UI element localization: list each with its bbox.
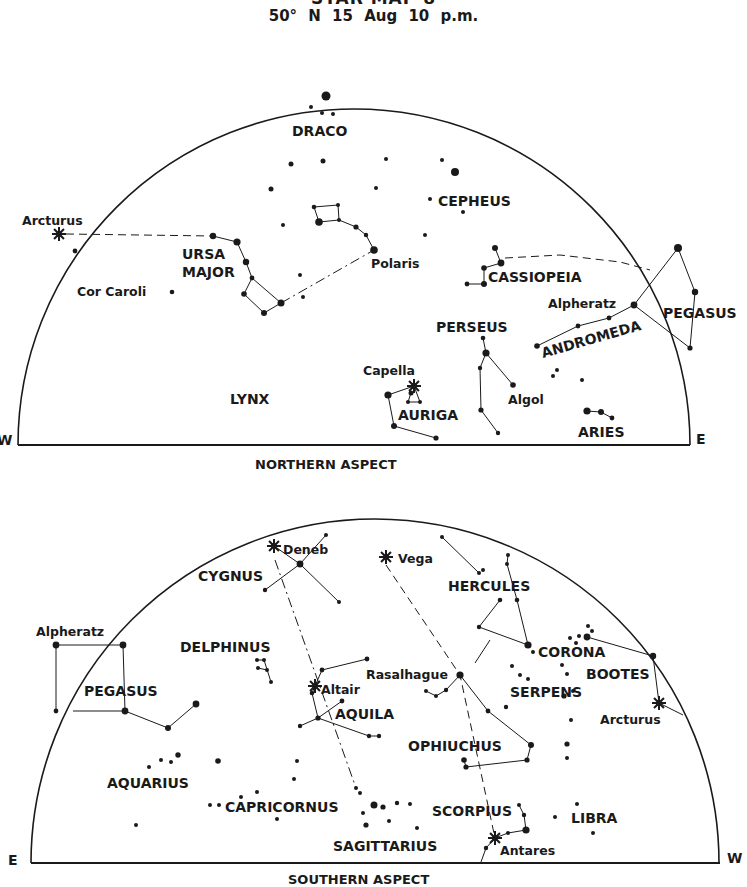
star-dot-icon [269, 187, 274, 192]
pointer-line [386, 565, 495, 838]
star-dot-icon [463, 764, 468, 769]
constellation-label: CAPRICORNUS [225, 799, 338, 815]
star-dot-icon [322, 92, 331, 101]
star-dot-icon [631, 302, 638, 309]
star-dot-icon [456, 671, 463, 678]
constellation-label: CORONA [538, 644, 606, 660]
star-dot-icon [504, 705, 508, 709]
star-dot-icon [424, 689, 428, 693]
star-dot-icon [526, 677, 530, 681]
bright-star-icon [308, 679, 322, 693]
star-dot-icon [243, 259, 249, 265]
star-dot-icon [584, 634, 591, 641]
star-dot-icon [551, 374, 555, 378]
star-dot-icon [505, 562, 509, 566]
star-name-label: Antares [500, 843, 555, 858]
star-dot-icon [269, 680, 273, 684]
star-dot-icon [522, 826, 529, 833]
star-dot-icon [340, 699, 345, 704]
star-dot-icon [263, 588, 267, 592]
star-dot-icon [241, 291, 247, 297]
star-dot-icon [444, 688, 448, 692]
star-dot-icon [423, 233, 427, 237]
star-dot-icon [477, 571, 481, 575]
star-dot-icon [361, 811, 365, 815]
star-name-label: Alpheratz [548, 296, 616, 311]
star-dot-icon [506, 553, 510, 557]
star-dot-icon [481, 265, 487, 271]
star-dot-icon [324, 533, 328, 537]
star-name-label: Algol [508, 392, 544, 407]
star-dot-icon [498, 260, 505, 267]
constellation-line [634, 248, 695, 348]
constellation-line [442, 537, 479, 573]
star-name-label: Cor Caroli [77, 284, 146, 299]
star-dot-icon [380, 804, 385, 809]
star-dot-icon [53, 642, 60, 649]
star-dot-icon [292, 777, 296, 781]
star-dot-icon [134, 823, 138, 827]
star-dot-icon [377, 734, 381, 738]
star-dot-icon [433, 435, 438, 440]
star-dot-icon [370, 246, 378, 254]
star-dot-icon [687, 345, 692, 350]
constellation-label: ARIES [578, 424, 624, 440]
aspect-caption: NORTHERN ASPECT [255, 457, 397, 472]
star-dot-icon [531, 650, 535, 654]
star-dot-icon [465, 282, 470, 287]
constellation-label: CYGNUS [198, 568, 263, 584]
star-dot-icon [434, 694, 438, 698]
star-dot-icon [208, 803, 212, 807]
bright-star-icon [379, 550, 393, 564]
star-dot-icon [169, 760, 173, 764]
star-dot-icon [312, 205, 317, 210]
star-dot-icon [262, 658, 266, 662]
star-dot-icon [428, 197, 432, 201]
constellation-label: AQUARIUS [107, 775, 189, 791]
star-dot-icon [295, 759, 299, 763]
star-dot-icon [518, 673, 522, 677]
star-name-label: Altair [321, 682, 361, 697]
constellation-label: AQUILA [335, 706, 394, 722]
star-dot-icon [492, 245, 498, 251]
star-dot-icon [321, 159, 326, 164]
star-dot-icon [363, 822, 368, 827]
star-dot-icon [54, 709, 59, 714]
pointer-line [505, 255, 650, 270]
constellation-label: PERSEUS [436, 319, 508, 335]
star-dot-icon [301, 295, 305, 299]
star-dot-icon [565, 672, 569, 676]
star-dot-icon [391, 423, 397, 429]
star-dot-icon [353, 224, 358, 229]
star-dot-icon [590, 629, 594, 633]
star-dot-icon [275, 817, 279, 821]
star-dot-icon [255, 790, 259, 794]
star-name-label: Arcturus [22, 213, 83, 228]
pointer-line [281, 250, 374, 303]
star-dot-icon [506, 831, 510, 835]
star-dot-icon [461, 210, 465, 214]
star-dot-icon [484, 846, 488, 850]
star-dot-icon [387, 819, 391, 823]
constellation-line [519, 805, 526, 830]
star-dot-icon [440, 535, 444, 539]
bright-star-icon [267, 539, 281, 553]
bright-star-icon [52, 227, 66, 241]
constellation-line [659, 703, 683, 715]
constellation-label: DELPHINUS [180, 639, 270, 655]
constellation-label: AURIGA [398, 407, 458, 423]
star-dot-icon [395, 801, 399, 805]
compass-direction-label: W [0, 432, 12, 448]
constellation-label: URSA [182, 246, 225, 262]
constellation-line [483, 338, 513, 385]
star-dot-icon [586, 624, 590, 628]
star-dot-icon [674, 244, 682, 252]
star-dot-icon [337, 218, 341, 222]
star-dot-icon [591, 831, 595, 835]
northern-aspect-panel: DRACOCEPHEUSURSAMAJORCASSIOPEIAPEGASUSPE… [0, 92, 737, 473]
compass-direction-label: E [8, 852, 18, 868]
star-dot-icon [481, 568, 485, 572]
star-name-label: Vega [398, 551, 433, 566]
star-dot-icon [320, 668, 325, 673]
star-dot-icon [371, 802, 378, 809]
